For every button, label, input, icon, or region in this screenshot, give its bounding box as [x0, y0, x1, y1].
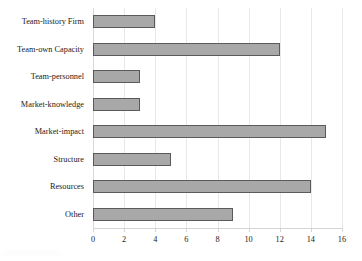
bar-row — [93, 173, 342, 201]
bar-row — [93, 201, 342, 229]
bar — [93, 153, 171, 166]
y-axis-label: Team-own Capacity — [17, 36, 84, 64]
x-tick-label: 8 — [206, 234, 230, 245]
y-axis-category-labels: Team-history FirmTeam-own CapacityTeam-p… — [0, 8, 89, 228]
y-axis-label: Team-history Firm — [22, 8, 84, 36]
x-tick-label: 16 — [330, 234, 354, 245]
x-tick-label: 0 — [81, 234, 105, 245]
bar — [93, 43, 280, 56]
x-tick-4 — [155, 228, 156, 232]
x-tick-10 — [249, 228, 250, 232]
x-tick-12 — [280, 228, 281, 232]
y-axis-label: Structure — [54, 146, 84, 174]
bar — [93, 98, 140, 111]
bar — [93, 70, 140, 83]
bar-rows — [93, 8, 342, 228]
x-tick-label: 14 — [299, 234, 323, 245]
bar-chart: Team-history FirmTeam-own CapacityTeam-p… — [0, 0, 362, 261]
bar-row — [93, 118, 342, 146]
bar-row — [93, 36, 342, 64]
bar — [93, 208, 233, 221]
plot-area — [93, 8, 342, 228]
x-tick-label: 4 — [143, 234, 167, 245]
bar — [93, 125, 326, 138]
bar-row — [93, 63, 342, 91]
bar — [93, 180, 311, 193]
y-axis-label: Other — [65, 201, 84, 229]
bar — [93, 15, 155, 28]
footer-artifact — [4, 250, 60, 256]
x-tick-label: 6 — [174, 234, 198, 245]
bar-row — [93, 146, 342, 174]
x-tick-6 — [186, 228, 187, 232]
x-tick-8 — [218, 228, 219, 232]
y-axis-label: Resources — [50, 173, 84, 201]
x-tick-0 — [93, 228, 94, 232]
y-axis-label: Market-knowledge — [21, 91, 84, 119]
gridline-16 — [342, 8, 343, 228]
x-tick-2 — [124, 228, 125, 232]
x-tick-label: 2 — [112, 234, 136, 245]
x-tick-label: 12 — [268, 234, 292, 245]
x-tick-16 — [342, 228, 343, 232]
y-axis-label: Market-impact — [35, 118, 84, 146]
bar-row — [93, 8, 342, 36]
x-tick-14 — [311, 228, 312, 232]
y-axis-label: Team-personnel — [31, 63, 84, 91]
x-tick-label: 10 — [237, 234, 261, 245]
bar-row — [93, 91, 342, 119]
